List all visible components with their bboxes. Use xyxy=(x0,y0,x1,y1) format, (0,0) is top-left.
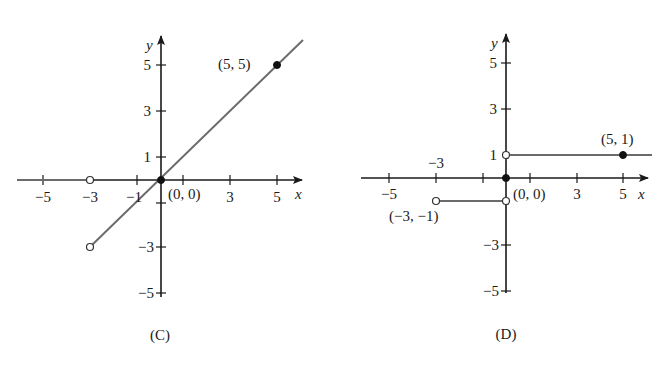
x-tick-label: −1 xyxy=(126,189,142,205)
caption-d: (D) xyxy=(496,326,517,343)
diagonal-segment xyxy=(92,40,303,245)
point-label-5-5: (5, 5) xyxy=(218,56,251,73)
open-point-0-m1 xyxy=(503,198,510,205)
closed-point-origin xyxy=(158,177,165,184)
x-axis-label: x xyxy=(637,186,645,202)
open-point-m3-m3 xyxy=(87,244,94,251)
y-tick-label: −3 xyxy=(138,239,154,255)
y-tick-label: 1 xyxy=(490,147,498,163)
x-tick-label: −3 xyxy=(82,189,98,205)
graph-c: −5 −3 −1 3 5 x 5 3 1 −3 −5 y (0, 0) (5, … xyxy=(17,36,303,344)
graph-d: −5 −3 3 5 x 5 3 1 −3 −5 y (0, 0) (5, 1) … xyxy=(361,34,652,343)
point-label-origin: (0, 0) xyxy=(168,186,201,203)
y-tick-label: 5 xyxy=(144,57,152,73)
y-tick-label: −5 xyxy=(138,285,154,301)
closed-point-5-5 xyxy=(274,62,281,69)
caption-c: (C) xyxy=(150,327,170,344)
x-tick-label: 3 xyxy=(226,189,234,205)
x-tick-label: −5 xyxy=(35,189,51,205)
x-tick-label: 5 xyxy=(273,189,281,205)
point-label-origin: (0, 0) xyxy=(513,186,546,203)
open-point-0-1 xyxy=(503,152,510,159)
y-axis-label: y xyxy=(489,35,498,51)
x-axis-label: x xyxy=(294,186,302,202)
y-tick-label: 3 xyxy=(490,101,498,117)
open-point-m3-0 xyxy=(87,177,94,184)
x-tick-label: −5 xyxy=(381,186,397,202)
y-axis-label: y xyxy=(144,37,153,53)
figure: −5 −3 −1 3 5 x 5 3 1 −3 −5 y (0, 0) (5, … xyxy=(0,0,655,366)
x-tick-label: 5 xyxy=(619,186,627,202)
y-tick-label: 3 xyxy=(144,103,152,119)
open-point-m3-m1 xyxy=(433,198,440,205)
x-tick-label: −3 xyxy=(428,155,444,171)
closed-point-origin xyxy=(503,175,510,182)
closed-point-5-1 xyxy=(620,152,627,159)
y-tick-label: −5 xyxy=(483,283,499,299)
y-tick-label: −3 xyxy=(483,237,499,253)
point-label-m3-m1: (−3, −1) xyxy=(389,208,438,225)
point-label-5-1: (5, 1) xyxy=(601,131,634,148)
y-tick-label: 1 xyxy=(144,149,152,165)
y-tick-label: 5 xyxy=(490,55,498,71)
x-tick-label: 3 xyxy=(573,186,581,202)
